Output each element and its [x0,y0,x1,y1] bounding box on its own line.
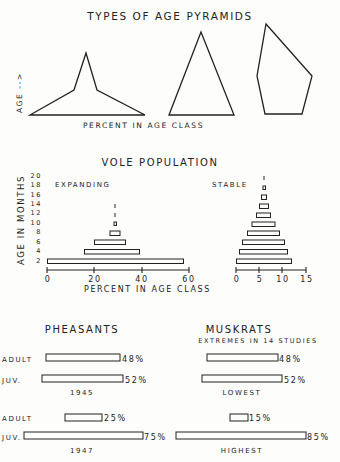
svg-text:8: 8 [36,228,42,236]
svg-text:15: 15 [300,275,313,284]
svg-text:14: 14 [31,200,42,208]
pyramid-stable [257,24,312,114]
pheasant-adult-1947-label: ADULT [2,415,33,423]
svg-text:10: 10 [31,219,42,227]
pyramids-xlabel: PERCENT IN AGE CLASS [83,121,204,130]
svg-text:52%: 52% [125,376,148,385]
svg-text:60: 60 [182,275,195,284]
pheasant-adult-1945-label: ADULT [2,356,33,364]
pheasant-1945-label: 1945 [70,389,94,397]
svg-text:25%: 25% [104,414,127,423]
pheasant-juv-1945-label: JUV. [1,377,22,385]
svg-text:16: 16 [31,191,42,199]
svg-text:5: 5 [257,275,264,284]
expanding-bars [48,204,184,264]
svg-text:85%: 85% [307,433,330,442]
figure: TYPES OF AGE PYRAMIDS AGE --> PERCENT IN… [0,0,340,462]
pyramids-ylabel: AGE --> [15,72,24,113]
svg-text:10: 10 [276,275,289,284]
svg-text:15%: 15% [249,414,272,423]
vole-xlabel: PERCENT IN AGE CLASS [84,285,211,294]
svg-text:6: 6 [36,238,42,246]
pheasant-values: 48% 52% 25% 75% [104,355,167,442]
muskrat-lowest-label: LOWEST [223,389,262,397]
pyramid-shapes [30,24,312,115]
svg-text:75%: 75% [144,433,167,442]
vole-age-ticks: 20 18 16 14 12 10 8 6 4 2 [31,172,42,265]
pyramid-expanding [30,53,145,115]
svg-text:52%: 52% [284,376,307,385]
pheasants-title: PHEASANTS [45,324,119,335]
svg-text:20: 20 [88,275,101,284]
pyramids-title: TYPES OF AGE PYRAMIDS [86,10,253,22]
muskrat-highest-label: HIGHEST [221,447,263,455]
vole-title: VOLE POPULATION [101,157,218,168]
svg-text:18: 18 [31,181,42,189]
muskrat-values: 48% 52% 15% 85% [249,355,330,442]
svg-text:2: 2 [36,257,42,265]
svg-text:0: 0 [45,275,52,284]
svg-text:48%: 48% [279,355,302,364]
stable-bars [237,176,292,264]
vole-ylabel: AGE IN MONTHS [16,175,26,265]
muskrats-title: MUSKRATS [206,324,273,335]
svg-text:12: 12 [31,209,42,217]
pheasant-juv-1947-label: JUV. [1,434,22,442]
svg-text:0: 0 [234,275,241,284]
pheasant-1947-label: 1947 [70,447,94,455]
expanding-label: EXPANDING [55,181,111,189]
svg-text:4: 4 [36,247,42,255]
vole-axes [47,267,306,273]
svg-text:48%: 48% [122,355,145,364]
stable-label: STABLE [212,181,248,189]
svg-text:20: 20 [31,172,42,180]
pyramid-triangle [169,32,234,115]
svg-text:40: 40 [135,275,148,284]
muskrats-subtitle: EXTREMES IN 14 STUDIES [198,337,317,345]
vole-x-ticks: 0 20 40 60 0 5 10 15 [45,275,314,284]
